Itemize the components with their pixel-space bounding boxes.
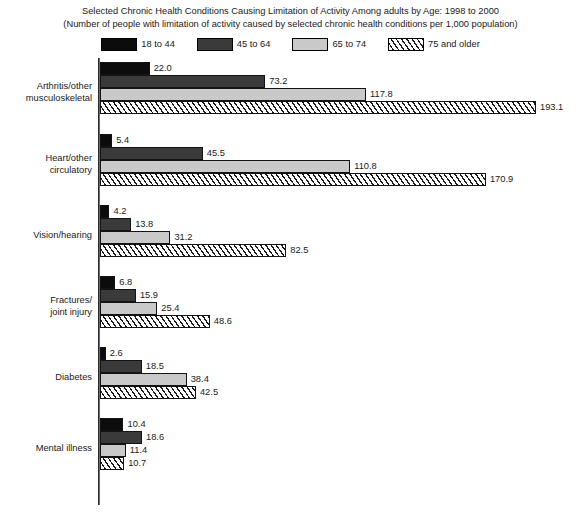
legend-swatch-solid-dark-gray	[197, 38, 233, 51]
bar-value-label: 4.2	[113, 205, 126, 218]
category-label: Vision/hearing	[0, 229, 92, 241]
legend-swatch-solid-light-gray	[292, 38, 328, 51]
category-label-line: Arthritis/other	[0, 80, 92, 92]
category-label-line: Fractures/	[0, 294, 92, 306]
bar-value-label: 18.6	[146, 431, 164, 444]
bar-value-label: 170.9	[490, 173, 513, 186]
legend-entry: 45 to 64	[197, 38, 271, 51]
legend-swatch-solid-black	[101, 38, 137, 51]
bar	[100, 373, 187, 386]
bar-value-label: 82.5	[290, 244, 308, 257]
bar-value-label: 45.5	[207, 147, 225, 160]
bar-group: Fractures/joint injury6.815.925.448.6	[0, 276, 581, 348]
bar	[100, 101, 536, 114]
bar	[100, 88, 366, 101]
bar	[100, 231, 170, 244]
bar-value-label: 25.4	[161, 302, 179, 315]
category-label-line: joint injury	[0, 306, 92, 318]
bar-value-label: 117.8	[370, 88, 393, 101]
bar-value-label: 193.1	[540, 101, 563, 114]
bar	[100, 315, 210, 328]
bar	[100, 431, 142, 444]
category-label-line: musculoskeletal	[0, 92, 92, 104]
legend-label: 18 to 44	[141, 39, 175, 49]
bar-group: Vision/hearing4.213.831.282.5	[0, 205, 581, 277]
bar-value-label: 18.5	[146, 360, 164, 373]
bar-value-label: 22.0	[154, 62, 172, 75]
bar	[100, 418, 123, 431]
bar	[100, 302, 157, 315]
bar-value-label: 48.6	[214, 315, 232, 328]
bar	[100, 276, 115, 289]
category-label-line: Vision/hearing	[0, 229, 92, 241]
category-label-line: circulatory	[0, 164, 92, 176]
category-label: Mental illness	[0, 442, 92, 454]
bar	[100, 386, 196, 399]
legend-entry: 75 and older	[388, 38, 480, 51]
bar-group: Diabetes2.618.538.442.5	[0, 347, 581, 419]
bar-value-label: 2.6	[110, 347, 123, 360]
chart-plot-area: Arthritis/othermusculoskeletal22.073.211…	[0, 56, 581, 508]
chart-titles: Selected Chronic Health Conditions Causi…	[0, 0, 581, 31]
legend-label: 45 to 64	[237, 39, 271, 49]
bar-value-label: 10.7	[128, 457, 146, 470]
bar	[100, 360, 142, 373]
bar-group: Heart/othercirculatory5.445.5110.8170.9	[0, 134, 581, 206]
bar-group: Mental illness10.418.611.410.7	[0, 418, 581, 490]
bar-value-label: 5.4	[116, 134, 129, 147]
chart-title: Selected Chronic Health Conditions Causi…	[0, 5, 581, 18]
bar	[100, 347, 106, 360]
bar	[100, 289, 136, 302]
bar-value-label: 110.8	[354, 160, 377, 173]
bar	[100, 244, 286, 257]
bar	[100, 205, 109, 218]
category-label: Fractures/joint injury	[0, 294, 92, 318]
bar-value-label: 73.2	[269, 75, 287, 88]
bar-value-label: 11.4	[130, 444, 147, 457]
bar	[100, 75, 265, 88]
bar-value-label: 15.9	[140, 289, 158, 302]
category-label-line: Diabetes	[0, 371, 92, 383]
bar-value-label: 38.4	[191, 373, 209, 386]
legend-label: 65 to 74	[332, 39, 366, 49]
bar	[100, 160, 350, 173]
bar	[100, 444, 126, 457]
bar-value-label: 31.2	[174, 231, 192, 244]
bar-value-label: 42.5	[200, 386, 218, 399]
category-label: Diabetes	[0, 371, 92, 383]
bar	[100, 134, 112, 147]
legend-label: 75 and older	[428, 39, 480, 49]
chart-legend: 18 to 4445 to 6465 to 7475 and older	[0, 36, 581, 52]
legend-entry: 65 to 74	[292, 38, 366, 51]
bar-group: Arthritis/othermusculoskeletal22.073.211…	[0, 62, 581, 134]
bar-value-label: 10.4	[127, 418, 145, 431]
category-label: Heart/othercirculatory	[0, 152, 92, 176]
bar-value-label: 13.8	[135, 218, 153, 231]
bar	[100, 173, 486, 186]
legend-swatch-diagonal-hatch	[388, 38, 424, 51]
category-label-line: Mental illness	[0, 442, 92, 454]
category-label: Arthritis/othermusculoskeletal	[0, 80, 92, 104]
bar	[100, 62, 150, 75]
bar	[100, 218, 131, 231]
bar	[100, 147, 203, 160]
bar	[100, 457, 124, 470]
category-label-line: Heart/other	[0, 152, 92, 164]
legend-entry: 18 to 44	[101, 38, 175, 51]
bar-value-label: 6.8	[119, 276, 132, 289]
chart-subtitle: (Number of people with limitation of act…	[0, 18, 581, 31]
